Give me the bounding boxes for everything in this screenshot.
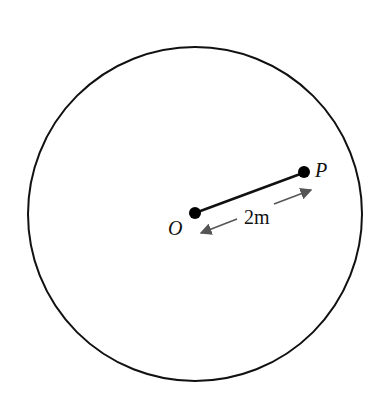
point-p-dot bbox=[298, 166, 310, 178]
point-o-dot bbox=[189, 207, 201, 219]
label-o: O bbox=[168, 217, 182, 239]
diagram-canvas: O P 2m bbox=[0, 0, 380, 403]
dimension-arrow-left bbox=[201, 219, 237, 233]
distance-label: 2m bbox=[244, 206, 270, 228]
label-p: P bbox=[314, 159, 327, 181]
dimension-arrow-right bbox=[274, 190, 311, 204]
